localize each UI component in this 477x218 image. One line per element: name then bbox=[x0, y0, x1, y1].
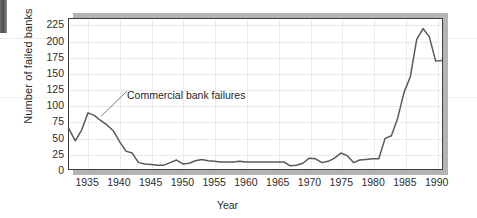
y-axis-tick-label: 175 bbox=[30, 52, 64, 62]
y-axis-tick-label: 225 bbox=[30, 19, 64, 29]
y-axis-tick-label: 150 bbox=[30, 68, 64, 78]
y-axis-tick-label: 25 bbox=[30, 149, 64, 159]
annotation-leader-line bbox=[100, 90, 130, 118]
x-axis-tick-label: 1990 bbox=[417, 176, 457, 188]
y-axis-tick-label: 125 bbox=[30, 84, 64, 94]
y-axis-tick-label: 200 bbox=[30, 36, 64, 46]
x-axis-title-text: Year bbox=[217, 199, 238, 211]
x-axis-tick-labels: 1935194019451950195519601965197019751980… bbox=[0, 176, 477, 190]
y-axis-tick-label: 50 bbox=[30, 133, 64, 143]
y-axis-tick-label: 0 bbox=[30, 165, 64, 175]
page-edge-artifact bbox=[0, 0, 7, 33]
y-axis-tick-label: 100 bbox=[30, 100, 64, 110]
y-axis-tick-label: 75 bbox=[30, 116, 64, 126]
annotation-commercial-bank-failures: Commercial bank failures bbox=[127, 89, 245, 101]
x-axis-title: Year bbox=[0, 199, 477, 211]
